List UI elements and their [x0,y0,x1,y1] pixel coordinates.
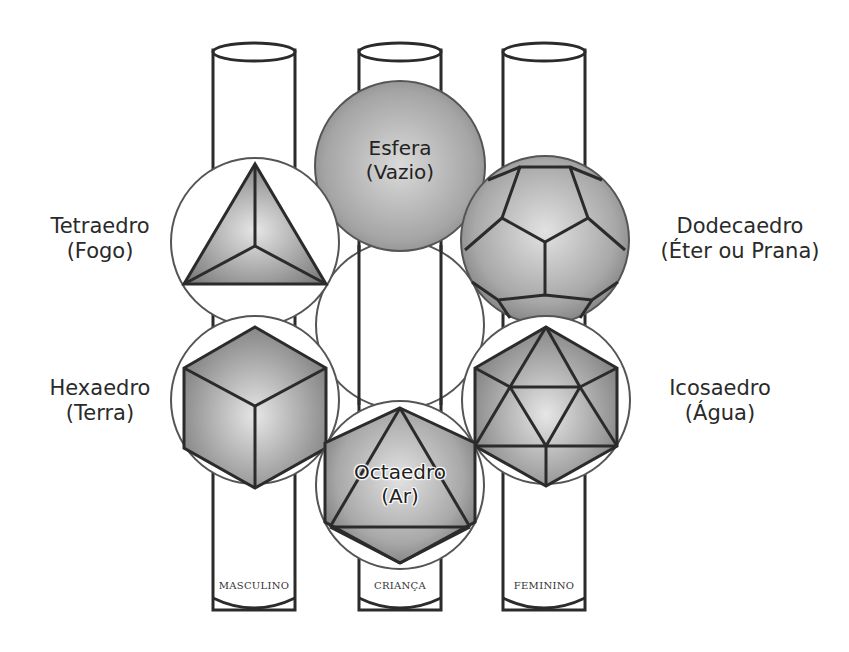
dodecahedron-name: Dodecaedro [640,214,840,239]
icosahedron-label: Icosaedro (Água) [640,376,800,426]
sphere-element: (Vazio) [330,160,470,184]
dodecahedron-label: Dodecaedro (Éter ou Prana) [640,214,840,264]
hexahedron-label: Hexaedro (Terra) [20,376,180,426]
icosahedron-element: (Água) [640,401,800,426]
dodecahedron-element: (Éter ou Prana) [640,239,840,264]
octahedron-label: Octaedro (Ar) [330,460,470,508]
octahedron-name: Octaedro [330,460,470,484]
tetrahedron-label: Tetraedro (Fogo) [20,214,180,264]
hexahedron-shape [171,316,339,488]
icosahedron-name: Icosaedro [640,376,800,401]
sphere-label: Esfera (Vazio) [330,136,470,184]
hexahedron-name: Hexaedro [20,376,180,401]
tetrahedron-name: Tetraedro [20,214,180,239]
column-label-crianca: CRIANÇA [359,580,441,591]
column-label-masculino: MASCULINO [213,580,295,591]
center-empty-circle [316,241,484,409]
icosahedron-shape [462,316,630,486]
tetrahedron-shape [171,158,339,326]
dodecahedron-shape [461,156,629,324]
platonic-solids-diagram: Esfera (Vazio) Octaedro (Ar) Tetraedro (… [0,0,849,652]
octahedron-element: (Ar) [330,484,470,508]
diagram-canvas [0,0,849,652]
hexahedron-element: (Terra) [20,401,180,426]
sphere-name: Esfera [330,136,470,160]
tetrahedron-element: (Fogo) [20,239,180,264]
column-label-feminino: FEMININO [503,580,585,591]
